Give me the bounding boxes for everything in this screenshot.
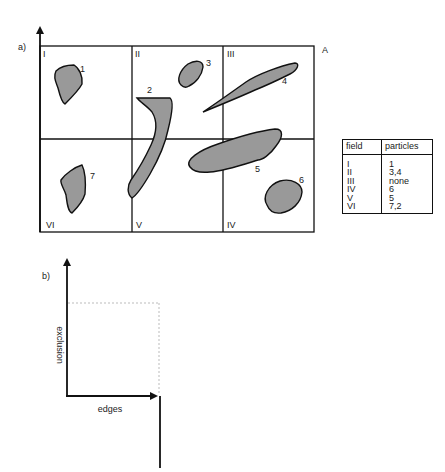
particles-cell: 6 xyxy=(389,185,429,194)
table-header-field: field xyxy=(343,140,382,155)
particle-2 xyxy=(128,98,172,198)
field-particles-table: field particles I II III IV V VI 1 3,4 n… xyxy=(342,139,433,214)
particles-column: 1 3,4 none 6 5 7,2 xyxy=(382,154,433,213)
particle-label-5: 5 xyxy=(255,164,260,174)
field-label-III: III xyxy=(227,49,235,59)
particle-3 xyxy=(179,61,203,87)
particles-cell: 7,2 xyxy=(389,202,429,211)
field-column: I II III IV V VI xyxy=(343,154,382,213)
field-label-V: V xyxy=(136,220,142,230)
particle-1 xyxy=(55,65,82,104)
field-label-VI: VI xyxy=(46,220,55,230)
particle-label-3: 3 xyxy=(206,58,211,68)
corner-label-a: A xyxy=(322,45,328,55)
panel-b: b) edges exclusion xyxy=(42,262,160,468)
particle-label-2: 2 xyxy=(147,85,152,95)
field-label-II: II xyxy=(135,49,140,59)
particle-label-7: 7 xyxy=(90,171,95,181)
table-header-particles: particles xyxy=(382,140,433,155)
particle-6 xyxy=(265,180,302,213)
particle-label-6: 6 xyxy=(299,175,304,185)
particle-label-1: 1 xyxy=(80,64,85,74)
particles-cell: none xyxy=(389,177,429,186)
particle-label-4: 4 xyxy=(282,76,287,86)
y-axis-label: exclusion xyxy=(55,326,65,364)
panel-b-label: b) xyxy=(42,271,50,281)
particle-5 xyxy=(189,129,282,172)
particle-4 xyxy=(203,63,298,112)
panel-a-label: a) xyxy=(18,42,26,52)
figure-canvas: a) A I II III IV V VI 1 2 3 4 5 6 7 xyxy=(0,0,445,472)
particle-7 xyxy=(61,165,86,213)
field-label-I: I xyxy=(43,49,46,59)
table-row: I II III IV V VI 1 3,4 none 6 5 7,2 xyxy=(343,154,433,213)
field-cell: VI xyxy=(347,202,378,211)
x-axis-label: edges xyxy=(98,404,123,414)
panel-a: a) A I II III IV V VI 1 2 3 4 5 6 7 xyxy=(18,30,328,232)
field-label-IV: IV xyxy=(227,220,236,230)
